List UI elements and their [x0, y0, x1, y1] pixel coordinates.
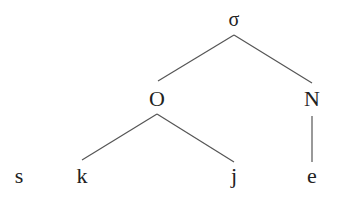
edge-onset-k — [82, 114, 157, 160]
edge-sigma-nucleus — [234, 35, 312, 83]
node-sigma: σ — [229, 8, 240, 30]
edges — [82, 35, 312, 162]
nodes: σ O N s k j e — [15, 8, 320, 188]
syllable-tree-diagram: σ O N s k j e — [0, 0, 340, 197]
leaf-s: s — [15, 163, 24, 188]
leaf-j: j — [230, 163, 237, 188]
leaf-e: e — [307, 163, 317, 188]
node-onset: O — [149, 86, 165, 111]
edge-sigma-onset — [158, 35, 234, 81]
edge-onset-j — [157, 114, 234, 162]
node-nucleus: N — [304, 86, 320, 111]
leaf-k: k — [77, 163, 88, 188]
